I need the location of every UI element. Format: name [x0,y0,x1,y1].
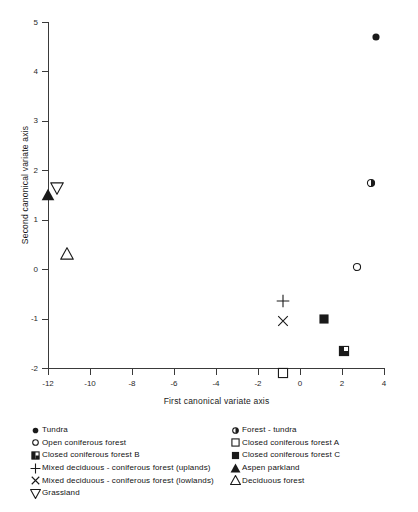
legend-item: Forest - tundra [228,424,418,437]
x-tick-mark [384,369,385,375]
data-point-filled-square [317,312,331,326]
y-tick-mark [42,319,48,320]
legend-item-label: Forest - tundra [242,424,297,436]
legend-item: Closed coniferous forest A [228,437,418,450]
half-filled-square-icon [28,449,42,461]
x-tick-label: 0 [287,379,313,388]
x-tick-mark [90,369,91,375]
x-tick-label: 2 [329,379,355,388]
legend-item: Tundra [28,424,228,437]
legend-item: Closed coniferous forest C [228,449,418,462]
y-tick-label: -2 [16,364,38,373]
data-point-open-circle [350,260,364,274]
x-tick-label: -6 [161,379,187,388]
legend-item-label: Mixed deciduous - coniferous forest (low… [42,475,214,487]
x-axis-title: First canonical variate axis [48,396,385,406]
y-tick-label: 5 [16,18,38,27]
y-tick-mark [42,22,48,23]
filled-square-icon [228,449,242,461]
x-tick-label: -12 [35,379,61,388]
legend-item: Grassland [28,487,228,500]
x-tick-mark [342,369,343,375]
x-tick-label: -8 [119,379,145,388]
legend-item-label: Open coniferous forest [42,437,126,449]
scatter-plot-figure: 543210-1-2 -12-10-8-6-4-2024 Second cano… [0,0,418,418]
open-triangle-up-icon [228,475,242,487]
y-tick-mark [42,220,48,221]
x-tick-mark [300,369,301,375]
legend-item-label: Aspen parkland [242,462,300,474]
legend-item: Open coniferous forest [28,437,228,450]
legend-item-label: Closed coniferous forest A [242,437,339,449]
y-tick-label: 4 [16,67,38,76]
x-tick-label: -2 [245,379,271,388]
legend-item-label: Tundra [42,424,68,436]
legend-column-right: Forest - tundraClosed coniferous forest … [228,424,418,487]
legend-item: Deciduous forest [228,474,418,487]
legend-item: Mixed deciduous - coniferous forest (upl… [28,462,228,475]
filled-circle-icon [28,424,42,436]
open-triangle-down-icon [28,487,42,499]
x-tick-label: -10 [77,379,103,388]
y-tick-label: -1 [16,314,38,323]
x-tick-mark [132,369,133,375]
legend-item-label: Deciduous forest [242,475,304,487]
x-tick-mark [174,369,175,375]
legend-item: Aspen parkland [228,462,418,475]
plot-canvas: 543210-1-2 -12-10-8-6-4-2024 [0,0,418,418]
data-point-plus [276,294,290,308]
x-tick-label: 4 [371,379,397,388]
legend-item-label: Closed coniferous forest C [242,449,340,461]
legend-item-label: Mixed deciduous - coniferous forest (upl… [42,462,211,474]
legend-item-label: Grassland [42,487,80,499]
data-point-open-square [276,366,290,380]
cross-icon [28,475,42,487]
y-tick-mark [42,269,48,270]
legend-column-left: TundraOpen coniferous forestClosed conif… [28,424,228,500]
legend-item: Mixed deciduous - coniferous forest (low… [28,474,228,487]
y-tick-mark [42,121,48,122]
x-tick-mark [258,369,259,375]
data-point-cross [276,314,290,328]
data-point-filled-circle [369,30,383,44]
data-point-half-filled-square [337,344,351,358]
x-tick-mark [216,369,217,375]
filled-triangle-up-icon [228,462,242,474]
y-tick-mark [42,71,48,72]
legend-item: Closed coniferous forest B [28,449,228,462]
legend-item-label: Closed coniferous forest B [42,449,140,461]
half-filled-circle-icon [228,424,242,436]
open-circle-icon [28,437,42,449]
open-square-icon [228,437,242,449]
data-point-half-filled-circle [364,176,378,190]
y-axis-title: Second canonical variate axis [20,100,30,270]
chart-legend: TundraOpen coniferous forestClosed conif… [0,424,418,512]
x-tick-mark [48,369,49,375]
data-point-open-triangle-down [50,181,64,195]
data-point-open-triangle-up [60,247,74,261]
plus-icon [28,462,42,474]
y-tick-mark [42,170,48,171]
x-tick-label: -4 [203,379,229,388]
